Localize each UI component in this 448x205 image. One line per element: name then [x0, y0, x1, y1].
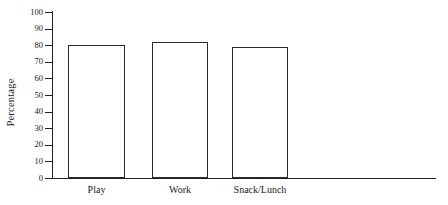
- y-axis-tick: [45, 145, 52, 146]
- y-axis-tick-label: 30: [0, 124, 43, 133]
- y-axis-tick-label: 70: [0, 57, 43, 66]
- y-axis-tick-label-text: 30: [0, 124, 43, 133]
- y-axis-tick: [45, 29, 52, 30]
- y-axis-tick: [45, 95, 52, 96]
- y-axis-tick-label-text: 50: [0, 91, 43, 100]
- y-axis-tick: [45, 78, 52, 79]
- y-axis-tick-label-text: 60: [0, 74, 43, 83]
- y-axis-tick: [45, 161, 52, 162]
- plot-area: 0102030405060708090100 PlayWorkSnack/Lun…: [0, 0, 448, 205]
- x-axis-category-label: Snack/Lunch: [207, 184, 313, 196]
- y-axis-tick-label: 10: [0, 157, 43, 166]
- y-axis-tick-label-text: 20: [0, 140, 43, 149]
- y-axis-tick-label: 20: [0, 140, 43, 149]
- y-axis-tick-label: 50: [0, 91, 43, 100]
- y-axis-tick-label: 80: [0, 41, 43, 50]
- y-axis-tick-label: 90: [0, 24, 43, 33]
- bar: [152, 42, 208, 178]
- bar: [68, 45, 125, 178]
- bar: [232, 47, 288, 178]
- y-axis-tick: [45, 45, 52, 46]
- x-axis-line: [52, 178, 436, 179]
- y-axis-tick-label: 40: [0, 107, 43, 116]
- y-axis-tick-label: 0: [0, 174, 43, 183]
- y-axis-tick-label-text: 40: [0, 107, 43, 116]
- bar-chart-figure: Percentage 0102030405060708090100 PlayWo…: [0, 0, 448, 205]
- y-axis-tick-label-text: 80: [0, 41, 43, 50]
- y-axis-tick-label: 60: [0, 74, 43, 83]
- y-axis-tick-label: 100: [0, 8, 43, 17]
- y-axis-tick: [45, 178, 52, 179]
- y-axis-tick-label-text: 90: [0, 24, 43, 33]
- y-axis-tick-label-text: 0: [0, 174, 43, 183]
- y-axis-tick-label-text: 70: [0, 57, 43, 66]
- y-axis-tick: [45, 112, 52, 113]
- y-axis-tick-label-text: 100: [0, 8, 43, 17]
- y-axis-tick-label-text: 10: [0, 157, 43, 166]
- y-axis-line: [52, 11, 53, 179]
- y-axis-tick: [45, 62, 52, 63]
- y-axis-tick: [45, 128, 52, 129]
- y-axis-tick: [45, 12, 52, 13]
